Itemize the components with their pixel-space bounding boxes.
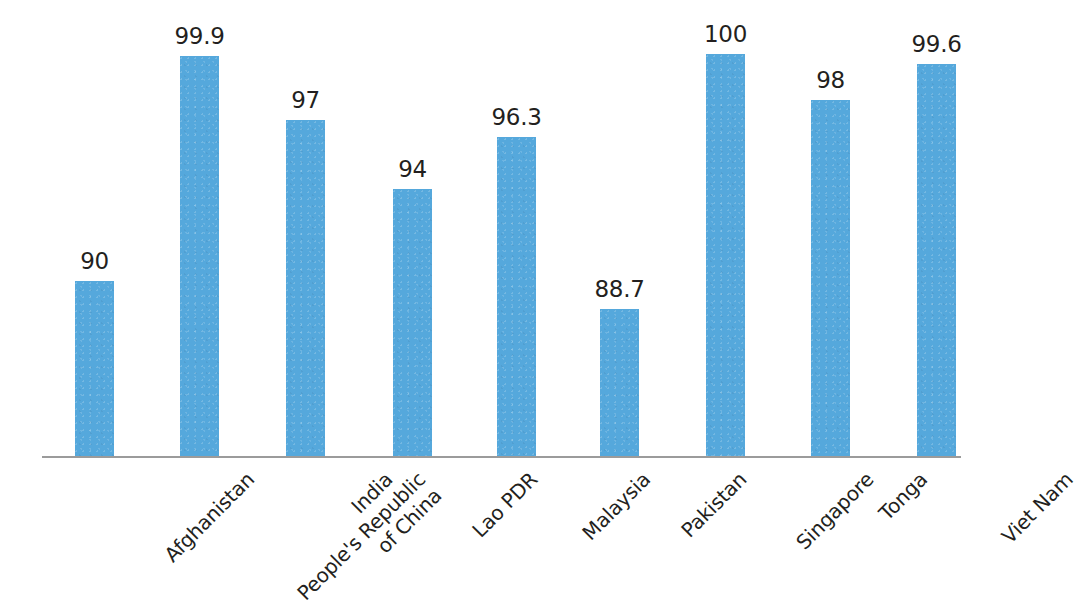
bar-value-label: 98	[816, 69, 845, 92]
bar-singapore	[706, 54, 745, 458]
plot-area: 90 99.9 97 94 96.3 88.7 100 98	[0, 0, 972, 458]
bar-value-label: 97	[291, 89, 320, 112]
bar-value-label: 100	[704, 23, 747, 46]
x-tick-label-lao-pdr: Lao PDR	[468, 468, 542, 542]
bar-pakistan	[600, 309, 639, 458]
x-tick-label-viet-nam: Viet Nam	[997, 468, 1077, 548]
bar-value-label: 99.9	[174, 25, 224, 48]
x-tick-label-afghanistan: Afghanistan	[160, 468, 259, 567]
bar-lao-pdr	[393, 189, 432, 458]
bar-afghanistan	[75, 281, 114, 458]
bar-value-label: 94	[398, 158, 427, 181]
bar-tonga	[811, 100, 850, 458]
x-tick-label-tonga: Tonga	[875, 468, 932, 525]
bar-value-label: 99.6	[911, 33, 961, 56]
x-axis-tick-labels: Afghanistan People's Republic of China I…	[0, 458, 972, 604]
x-tick-label-pakistan: Pakistan	[677, 468, 751, 542]
bar-value-label: 90	[80, 250, 109, 273]
bar-india	[286, 120, 325, 458]
bar-malaysia	[497, 137, 536, 458]
bar-peoples-republic-of-china	[180, 56, 219, 458]
bar-value-label: 96.3	[491, 106, 541, 129]
bar-value-label: 88.7	[594, 278, 644, 301]
x-tick-label-singapore: Singapore	[792, 468, 878, 554]
x-tick-label-malaysia: Malaysia	[578, 468, 655, 545]
bar-viet-nam	[917, 64, 956, 458]
